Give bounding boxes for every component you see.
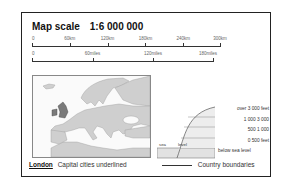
km-tick-label: 300km: [213, 36, 227, 41]
capital-example: London: [29, 161, 53, 168]
miles-tick-label: 0: [32, 51, 35, 56]
miles-scale-bar: 0 60miles 120miles 180miles: [32, 52, 214, 62]
europe-locator-map: [32, 75, 151, 158]
map-scale-title: Map scale1:6 000 000: [32, 21, 143, 32]
svg-text:sea: sea: [159, 142, 167, 147]
country-boundaries-legend: Country boundaries: [162, 161, 255, 168]
map-key-panel: Map scale1:6 000 000 0 60km 120km 180km …: [21, 12, 271, 177]
km-scale-bar: 0 60km 120km 180km 240km 300km: [32, 37, 221, 47]
miles-tick-label: 180miles: [199, 51, 217, 56]
km-tick-label: 0: [32, 36, 35, 41]
elevation-band-label: 500 1 000: [217, 127, 269, 138]
km-tick-label: 60km: [64, 36, 75, 41]
elevation-band-label: 1 000 3 000: [217, 117, 269, 128]
miles-scale-line: [32, 61, 214, 63]
elevation-band-label: below sea level: [217, 148, 269, 159]
capital-cities-legend: London Capital cities underlined: [29, 161, 127, 168]
svg-text:level: level: [178, 142, 187, 147]
elevation-band-label: over 3 000 feet: [217, 106, 269, 117]
elevation-profile-graphic: sea level: [157, 105, 215, 159]
europe-map-graphic: [33, 76, 150, 157]
boundary-line-icon: [162, 165, 192, 166]
km-tick-label: 180km: [139, 36, 153, 41]
boundary-legend-text: Country boundaries: [198, 161, 255, 168]
title-label: Map scale: [32, 21, 80, 32]
km-tick-label: 120km: [101, 36, 115, 41]
elevation-legend: over 3 000 feet 1 000 3 000 500 1 000 0 …: [217, 106, 269, 159]
km-tick-label: 240km: [176, 36, 190, 41]
elevation-profile-diagram: sea level: [157, 105, 215, 159]
capital-legend-text: Capital cities underlined: [58, 161, 127, 168]
scale-ratio: 1:6 000 000: [90, 21, 143, 32]
miles-tick-label: 60miles: [85, 51, 101, 56]
km-scale-line: [32, 46, 221, 48]
miles-tick-label: 120miles: [144, 51, 162, 56]
elevation-band-label: 0 500 feet: [217, 138, 269, 149]
